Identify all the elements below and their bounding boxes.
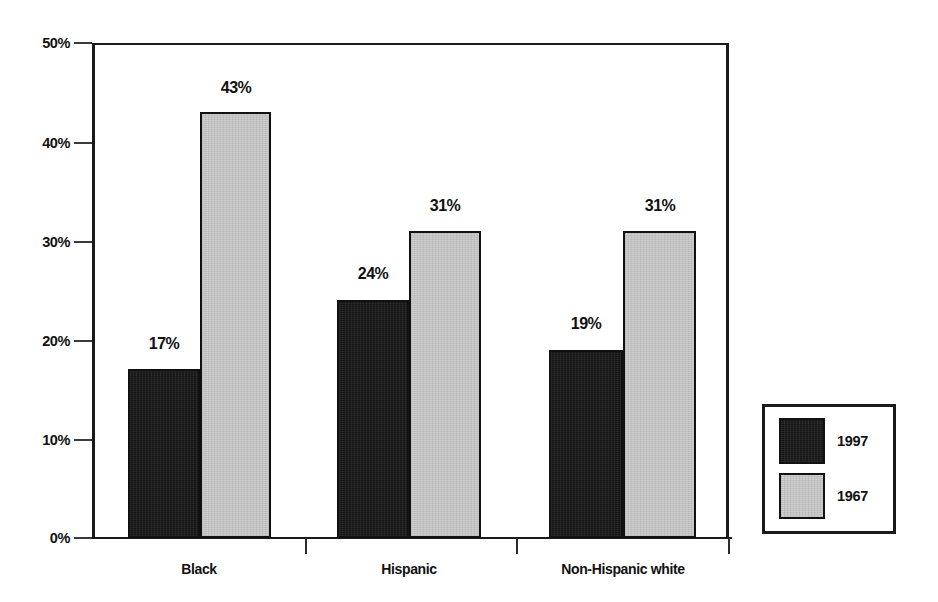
legend: 1997 1967 xyxy=(762,404,896,534)
bar-value-non-hispanic-white-1967: 31% xyxy=(620,198,700,214)
legend-swatch-1997 xyxy=(779,418,825,464)
bar-value-non-hispanic-white-1997: 19% xyxy=(546,316,626,332)
y-tick-label-20: 20% xyxy=(22,334,70,349)
bar-value-hispanic-1967: 31% xyxy=(405,198,485,214)
y-tick-stub-50 xyxy=(74,42,92,44)
bar-non-hispanic-white-1967[interactable] xyxy=(623,231,696,538)
y-tick-label-10: 10% xyxy=(22,433,70,448)
x-category-label-non-hispanic-white: Non-Hispanic white xyxy=(503,562,743,576)
legend-swatch-1967 xyxy=(779,473,825,519)
bar-black-1997[interactable] xyxy=(128,369,200,538)
legend-label-1967: 1967 xyxy=(837,489,893,504)
x-category-label-black: Black xyxy=(79,562,319,576)
y-tick-stub-0 xyxy=(74,537,92,539)
y-tick-label-40: 40% xyxy=(22,136,70,151)
bar-hispanic-1997[interactable] xyxy=(337,300,409,538)
x-group-tick-3 xyxy=(728,538,730,554)
x-group-tick-1 xyxy=(305,538,307,554)
legend-row-1997[interactable]: 1997 xyxy=(765,418,893,468)
bar-value-hispanic-1997: 24% xyxy=(333,266,413,282)
y-tick-stub-30 xyxy=(74,241,92,243)
legend-row-1967[interactable]: 1967 xyxy=(765,473,893,523)
x-category-label-hispanic: Hispanic xyxy=(289,562,529,576)
bar-chart-figure: 50% 40% 30% 20% 10% 0% 17% 43% 24% 31% 1… xyxy=(0,0,938,602)
y-tick-stub-20 xyxy=(74,340,92,342)
y-tick-label-30: 30% xyxy=(22,235,70,250)
legend-label-1997: 1997 xyxy=(837,434,893,449)
y-tick-label-0: 0% xyxy=(22,531,70,546)
bar-value-black-1967: 43% xyxy=(196,80,276,96)
bar-value-black-1997: 17% xyxy=(124,336,204,352)
y-tick-stub-40 xyxy=(74,142,92,144)
x-group-tick-2 xyxy=(516,538,518,554)
y-tick-stub-10 xyxy=(74,439,92,441)
bar-non-hispanic-white-1997[interactable] xyxy=(549,350,623,538)
y-tick-label-50: 50% xyxy=(22,36,70,51)
bar-black-1967[interactable] xyxy=(200,112,271,538)
bar-hispanic-1967[interactable] xyxy=(409,231,481,538)
